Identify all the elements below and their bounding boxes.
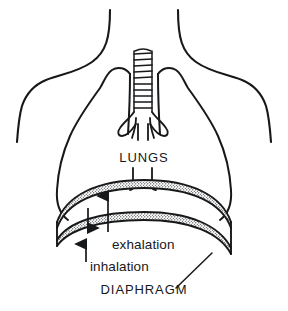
lungs-diaphragm-diagram: LUNGS exhalation inhalation DIAPHRAGM <box>0 0 288 311</box>
diagram-canvas: LUNGS exhalation inhalation DIAPHRAGM <box>0 0 288 311</box>
inhalation-label: inhalation <box>90 259 149 274</box>
exhalation-label: exhalation <box>112 237 175 252</box>
lungs-label: LUNGS <box>119 150 168 165</box>
diaphragm-label: DIAPHRAGM <box>101 282 188 297</box>
